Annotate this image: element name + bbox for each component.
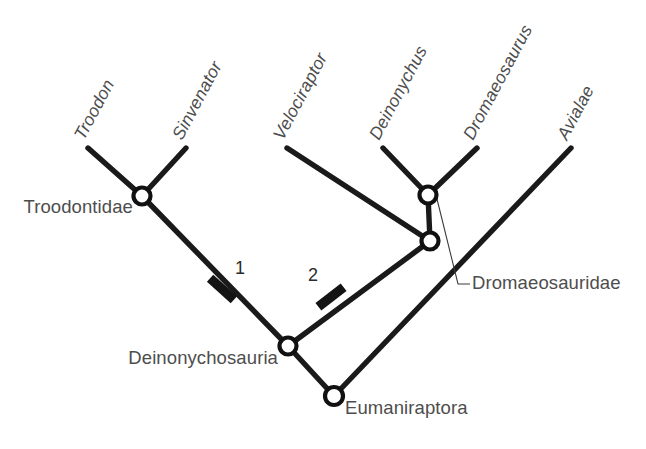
- node-dromaeosauridae: [420, 187, 437, 204]
- cladogram-canvas: TroodonSinvenatorVelociraptorDeinonychus…: [0, 0, 646, 449]
- node-deinonychus-node: [422, 233, 439, 250]
- character-2-tick: [318, 287, 343, 307]
- taxon-label-deinonychus: Deinonychus: [365, 42, 431, 143]
- branch-troodontidae-stem: [142, 196, 288, 346]
- taxon-label-sinvenator: Sinvenator: [168, 57, 226, 143]
- branch-deinonychosaur: [288, 241, 430, 346]
- taxon-label-velociraptor: Velociraptor: [269, 49, 332, 143]
- clade-label-deinonychosauria: Deinonychosauria: [128, 347, 278, 368]
- taxon-label-troodon: Troodon: [70, 76, 118, 143]
- character-labels-group: 12: [235, 258, 318, 285]
- character-1-label: 1: [235, 258, 245, 278]
- branch-velociraptor: [287, 148, 430, 241]
- character-2-label: 2: [308, 265, 318, 285]
- cladogram-figure: TroodonSinvenatorVelociraptorDeinonychus…: [0, 0, 646, 449]
- branch-troodon: [88, 148, 142, 196]
- taxon-label-avialae: Avialae: [552, 82, 598, 144]
- clade-label-eumaniraptora: Eumaniraptora: [345, 397, 468, 418]
- clade-label-troodontidae: Troodontidae: [23, 196, 133, 217]
- clade-label-dromaeosauridae: Dromaeosauridae: [472, 272, 621, 293]
- taxon-labels-group: TroodonSinvenatorVelociraptorDeinonychus…: [70, 21, 598, 144]
- node-eumaniraptora: [325, 387, 343, 405]
- node-deinonychosauria: [280, 338, 297, 355]
- character-marks-group: [210, 278, 343, 307]
- taxon-label-dromaeosaurus: Dromaeosaurus: [459, 21, 536, 143]
- node-troodontidae: [134, 188, 151, 205]
